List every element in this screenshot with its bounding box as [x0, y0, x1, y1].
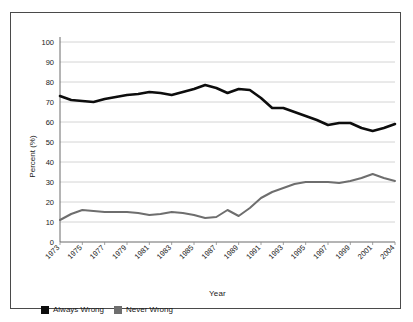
y-axis-title-wrap: Percent (%): [25, 118, 37, 198]
chart-figure: 0102030405060708090100197319751977197919…: [0, 0, 413, 322]
x-axis-title: Year: [11, 289, 413, 298]
legend-swatch-never-wrong: [114, 306, 122, 314]
legend-label-always-wrong: Always Wrong: [53, 305, 104, 314]
y-tick-label: 100: [41, 38, 54, 47]
y-tick-label: 20: [46, 198, 54, 207]
x-tick-label: 2004: [378, 243, 396, 261]
y-tick-label: 40: [46, 158, 54, 167]
legend-swatch-always-wrong: [41, 306, 49, 314]
x-tick-label: 1975: [66, 243, 84, 261]
series-line: [60, 174, 395, 220]
y-tick-label: 10: [46, 218, 54, 227]
x-tick-label: 1989: [222, 243, 240, 261]
legend-item-never-wrong: Never Wrong: [114, 305, 173, 314]
x-tick-label: 1997: [311, 243, 329, 261]
y-tick-label: 30: [46, 178, 54, 187]
x-tick-label: 1995: [289, 243, 307, 261]
legend-label-never-wrong: Never Wrong: [126, 305, 173, 314]
y-tick-label: 70: [46, 98, 54, 107]
y-tick-label: 80: [46, 78, 54, 87]
chart-frame: 0102030405060708090100197319751977197919…: [10, 12, 401, 309]
x-tick-label: 1987: [200, 243, 218, 261]
x-tick-label: 1983: [155, 243, 173, 261]
x-tick-label: 1977: [88, 243, 106, 261]
x-tick-label: 1981: [133, 243, 151, 261]
x-tick-label: 1991: [244, 243, 262, 261]
legend-item-always-wrong: Always Wrong: [41, 305, 104, 314]
y-tick-label: 60: [46, 118, 54, 127]
series-line: [60, 85, 395, 131]
x-tick-label: 1993: [267, 243, 285, 261]
y-axis-title: Percent (%): [28, 122, 37, 192]
x-tick-label: 1973: [43, 243, 61, 261]
x-tick-label: 1979: [110, 243, 128, 261]
y-tick-label: 50: [46, 138, 54, 147]
line-chart-plot: 0102030405060708090100197319751977197919…: [11, 13, 400, 308]
x-tick-label: 1985: [177, 243, 195, 261]
x-tick-label: 1999: [334, 243, 352, 261]
y-tick-label: 90: [46, 58, 54, 67]
x-tick-label: 2001: [356, 243, 374, 261]
chart-legend: Always Wrong Never Wrong: [41, 305, 173, 314]
